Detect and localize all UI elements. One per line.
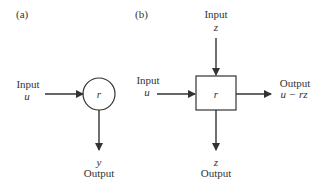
node-b-label: r — [214, 89, 218, 100]
diagram-canvas — [0, 0, 323, 188]
panel-a-label: (a) — [16, 9, 28, 20]
left-input-label: Input — [136, 75, 159, 86]
input-label-a: Input — [16, 79, 39, 90]
top-input-label: Input — [204, 9, 227, 20]
output-label-a: Output — [84, 168, 115, 179]
bottom-output-label: Output — [201, 168, 232, 179]
input-var-a: u — [24, 91, 30, 102]
panel-a-graphics — [45, 78, 115, 150]
node-a-label: r — [97, 89, 101, 100]
left-input-var: u — [144, 87, 150, 98]
panel-b-label: (b) — [135, 9, 148, 20]
top-input-var: z — [214, 22, 218, 33]
right-output-var: u − rz — [281, 89, 308, 100]
